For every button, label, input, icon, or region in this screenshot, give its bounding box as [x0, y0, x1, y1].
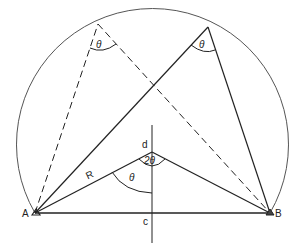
label-theta-center: θ [129, 172, 135, 183]
label-a: A [22, 208, 29, 219]
radius-da [35, 152, 152, 213]
label-theta-p1: θ [96, 39, 102, 50]
label-c: c [143, 216, 148, 227]
inscribed-angle-diagram: A B c d R θ θ 2θ θ [0, 0, 302, 250]
label-r: R [84, 168, 95, 181]
angle-arc-p1 [90, 44, 116, 50]
label-theta-p2: θ [199, 39, 205, 50]
solid-line-a-p2 [35, 27, 208, 213]
label-b: B [275, 208, 282, 219]
label-d: d [142, 139, 148, 150]
label-two-theta: 2θ [143, 155, 156, 166]
